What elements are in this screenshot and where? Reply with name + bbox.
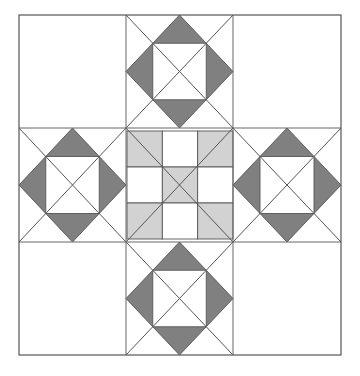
quilt-block-root <box>19 15 341 355</box>
nine-patch-cell-r0-c1 <box>162 131 197 167</box>
quilt-block-svg <box>0 0 360 376</box>
cell-background-r0-c0 <box>19 15 126 128</box>
nine-patch-cell-r0-c2 <box>198 131 233 167</box>
quilt-diagram-stage <box>0 0 360 376</box>
nine-patch-cell-r1-c0 <box>127 167 162 203</box>
nine-patch-cell-r1-c2 <box>198 167 233 203</box>
cell-background-r2-c2 <box>233 242 341 355</box>
nine-patch-cell-r2-c2 <box>198 203 233 239</box>
cell-background-r0-c2 <box>233 15 341 128</box>
cell-background-r2-c0 <box>19 242 126 355</box>
nine-patch-cell-r2-c1 <box>162 203 197 239</box>
